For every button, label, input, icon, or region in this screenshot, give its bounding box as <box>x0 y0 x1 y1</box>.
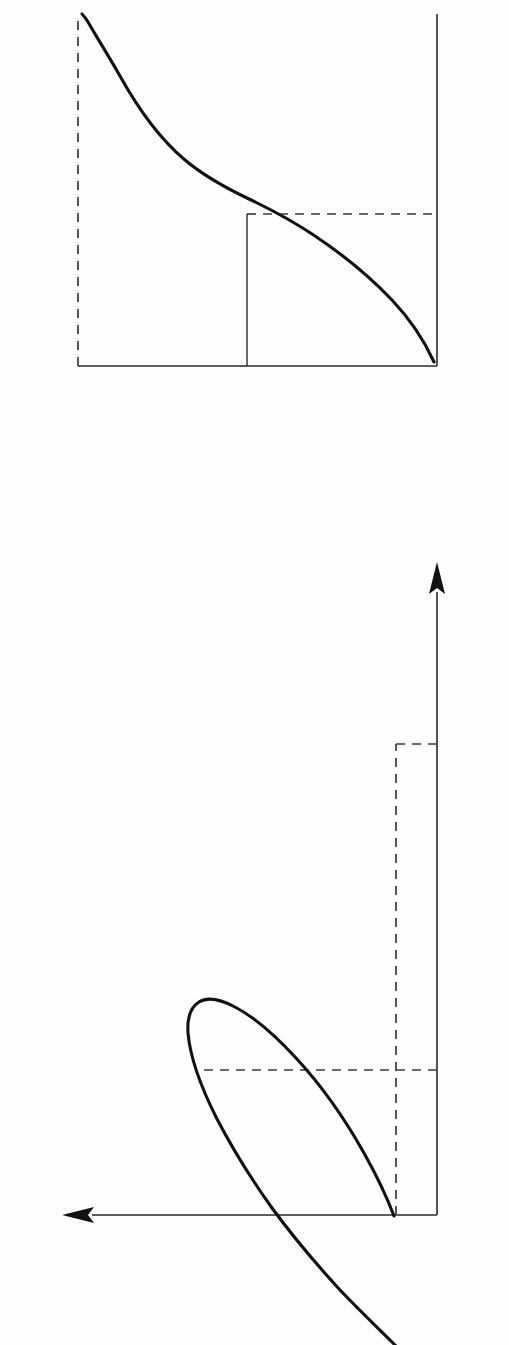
panel-cumulative-adoptions <box>0 0 509 500</box>
panel-b-value-axis-arrowhead <box>62 1207 94 1223</box>
panel-b-time-axis-arrowhead <box>429 562 445 594</box>
panel-b-plot <box>0 500 509 1345</box>
panel-noncumulative-adoptions <box>0 500 509 1345</box>
figure-page <box>0 0 509 1345</box>
panel-b-curve <box>188 999 401 1345</box>
panel-a-plot <box>0 0 509 500</box>
panel-a-curve <box>82 14 434 362</box>
